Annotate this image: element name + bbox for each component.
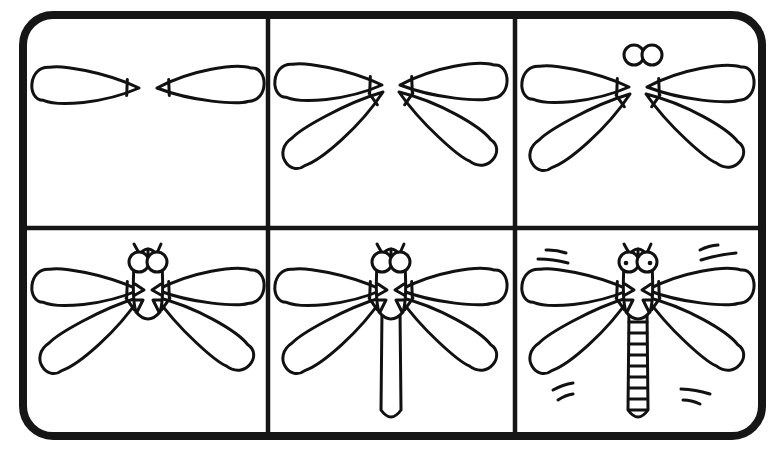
- upper-left-wing-notch: [370, 77, 371, 93]
- tail: [628, 310, 648, 417]
- upper-right-wing-notch: [412, 77, 413, 93]
- pupil-right: [648, 261, 653, 266]
- upper-right-wing-notch: [412, 282, 413, 298]
- upper-right-wing-notch: [659, 79, 660, 95]
- dragonfly-steps-diagram: [0, 0, 773, 460]
- eye-right: [642, 45, 662, 65]
- upper-right-wing-notch: [169, 80, 170, 96]
- eye-right: [637, 252, 657, 272]
- upper-right-wing-notch: [169, 282, 170, 298]
- tail: [381, 310, 401, 417]
- upper-right-wing-notch: [659, 282, 660, 298]
- upper-left-wing-notch: [617, 79, 618, 95]
- eye-right: [390, 252, 410, 272]
- upper-left-wing-notch: [617, 282, 618, 298]
- eye-right: [147, 252, 167, 272]
- upper-left-wing-notch: [370, 282, 371, 298]
- upper-left-wing-notch: [127, 80, 128, 96]
- pupil-left: [624, 261, 629, 266]
- upper-left-wing-notch: [127, 282, 128, 298]
